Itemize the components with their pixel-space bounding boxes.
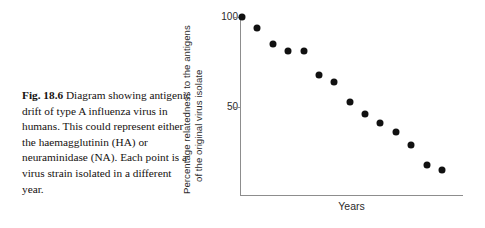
data-point — [362, 111, 369, 118]
data-point — [285, 48, 292, 55]
data-point — [392, 129, 399, 136]
data-point — [254, 24, 261, 31]
x-axis-label: Years — [240, 200, 463, 212]
y-axis-label-line-2: of the original virus isolate — [193, 70, 204, 182]
data-point — [315, 71, 322, 78]
y-axis-label: Percentage relatedness to the antigens o… — [182, 0, 212, 196]
data-point — [300, 48, 307, 55]
y-axis-label-line-1: Percentage relatedness to the antigens — [181, 25, 192, 194]
data-point — [269, 41, 276, 48]
data-point — [331, 78, 338, 85]
x-axis-line — [240, 195, 463, 196]
data-point — [439, 167, 446, 174]
data-point — [239, 14, 246, 21]
plot-area — [240, 16, 462, 195]
data-point — [423, 161, 430, 168]
data-point — [408, 141, 415, 148]
chart-figure: Percentage relatedness to the antigens o… — [0, 0, 485, 228]
data-point — [346, 98, 353, 105]
y-tick-label-50: 50 — [204, 101, 238, 112]
y-tick-label-100: 100 — [204, 11, 238, 22]
data-point — [377, 120, 384, 127]
